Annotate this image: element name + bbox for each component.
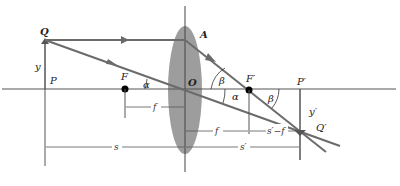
label-beta-upper: β [218,75,225,86]
ray-arrow-icon [205,53,216,62]
label-P: P [49,75,57,86]
ray-arrow-icon [106,59,117,65]
label-y: y [34,61,41,72]
label-s: s [114,142,119,152]
label-Q-prime: Q′ [316,122,327,133]
label-Q: Q [40,26,49,37]
label-s-prime-minus-f: s′−f [267,126,286,136]
label-F: F [120,71,129,82]
label-y-prime: y′ [308,106,318,117]
label-F-prime: F′ [245,73,256,84]
label-P-prime: P′ [296,76,307,87]
alpha-arc-right [223,89,225,103]
label-alpha-right: α [232,91,239,102]
lens-diagram: Q P y F α O A β α F′ β P′ y′ Q′ f f s′−f… [0,0,400,186]
label-beta-right: β [267,93,274,104]
label-s-prime: s′ [240,142,247,152]
label-O: O [188,77,197,88]
ray-through-focus [185,40,326,152]
ray-arrow-icon [121,36,129,44]
label-A: A [199,29,208,40]
label-alpha-left: α [143,79,150,90]
